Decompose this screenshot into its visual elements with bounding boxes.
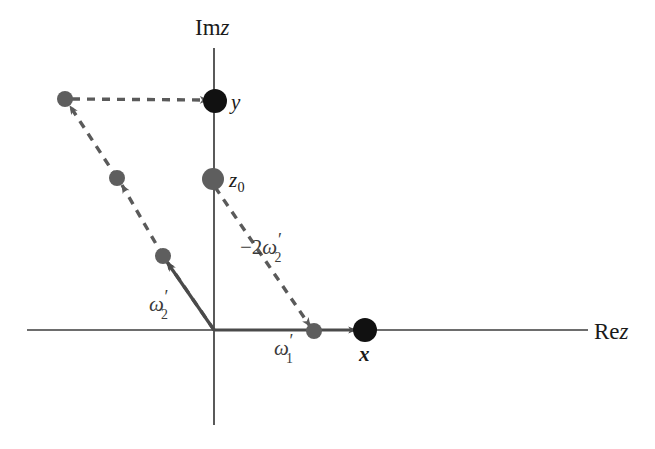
point-label-y-text: y [231, 90, 240, 114]
annotation-minus-two-omega2-prefix: −2 [240, 235, 262, 259]
real-axis-label: Rez [594, 320, 629, 343]
imaginary-axis-label-var: z [221, 15, 230, 40]
point-label-y: y [231, 92, 240, 113]
vector-label-omega1-prime: ′ [290, 333, 294, 351]
annotation-minus-two-omega2: −2ω′2 [240, 237, 277, 258]
vector-label-omega2-prime: ′ [165, 289, 169, 307]
annotation-minus-two-omega2-sub: 2 [274, 251, 281, 265]
imaginary-axis-label-text: Im [195, 15, 221, 40]
real-axis-label-text: Re [594, 319, 620, 344]
imaginary-axis-label: Imz [195, 16, 230, 39]
black-point-y [203, 89, 227, 113]
black-point-x [353, 318, 377, 342]
gray-point-node-mid [109, 170, 125, 186]
point-label-z0: z0 [229, 170, 245, 194]
gray-point-omega2 [155, 248, 171, 264]
vector-label-omega1: ω′1 [274, 338, 289, 359]
figure-canvas [0, 0, 655, 449]
point-label-x-text: x [359, 342, 370, 366]
gray-point-node-upper [57, 91, 73, 107]
gray-point-omega1 [306, 323, 322, 339]
point-label-x: x [359, 344, 370, 365]
point-label-z0-text: z [229, 168, 237, 192]
vector-label-omega1-sub: 1 [286, 352, 293, 366]
dashed-vector-translate-3 [70, 106, 117, 178]
vector-label-omega2-sub: 2 [161, 308, 168, 322]
gray-point-z0 [202, 168, 224, 190]
point-label-z0-sub: 0 [237, 179, 244, 195]
complex-plane-figure: Imz Rez y x z0 ω′1 ω′2 −2ω′2 [0, 0, 655, 449]
real-axis-label-var: z [620, 319, 629, 344]
dashed-vector-translate-2 [122, 185, 163, 256]
solid-vector-omega2 [167, 262, 214, 330]
annotation-minus-two-omega2-prime: ′ [278, 232, 282, 250]
vector-label-omega2: ω′2 [149, 294, 164, 315]
dashed-vector-translate-to-y [72, 99, 208, 100]
